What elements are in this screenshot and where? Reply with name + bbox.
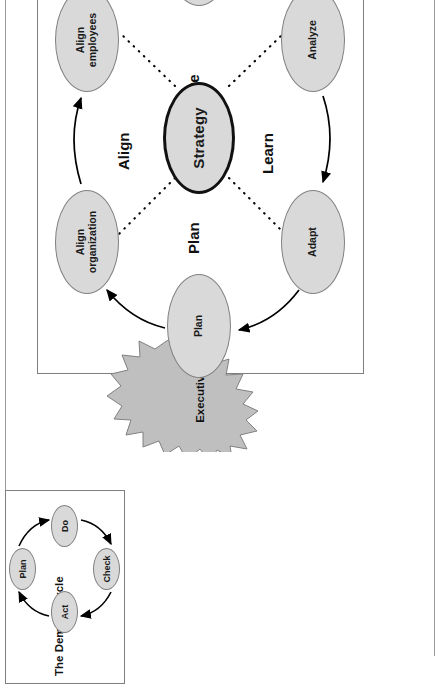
node-adapt[interactable]: Adapt [281,190,345,294]
deming-node-do[interactable]: Do [51,505,78,547]
page-right-edge [434,0,435,656]
node-label-line2: employees [86,13,98,67]
quadrant-label-align: Align [115,133,132,171]
node-align-organization-label: Align organization [75,211,99,273]
deming-node-do-label: Do [60,520,70,532]
deming-node-act-label: Act [60,605,70,620]
node-label-line2: organization [86,211,98,273]
node-adapt-label: Adapt [307,227,319,257]
deming-node-act[interactable]: Act [51,591,78,633]
deming-node-plan-label: Plan [18,560,28,579]
quadrant-label-plan: Plan [185,222,202,254]
deming-node-check[interactable]: Check [93,548,120,590]
node-plan-label: Plan [193,315,205,337]
node-align-organization[interactable]: Align organization [55,190,119,294]
node-label-line1: Align [74,229,86,255]
quadrant-label-learn: Learn [259,133,276,174]
node-label-line1: Align [74,27,86,53]
deming-node-check-label: Check [102,556,112,583]
deming-node-plan[interactable]: Plan [9,548,36,590]
strategy-diagram: Executive Leadership [37,0,366,374]
node-plan[interactable]: Plan [167,274,231,378]
node-strategy-core[interactable]: Strategy [163,82,235,194]
node-analyze-label: Analyze [307,20,319,60]
node-align-employees-label: Align employees [75,13,99,67]
deming-cycle-inset: The Deming Cycle Plan Do Check Act [5,488,127,684]
node-strategy-label: Strategy [191,107,208,169]
